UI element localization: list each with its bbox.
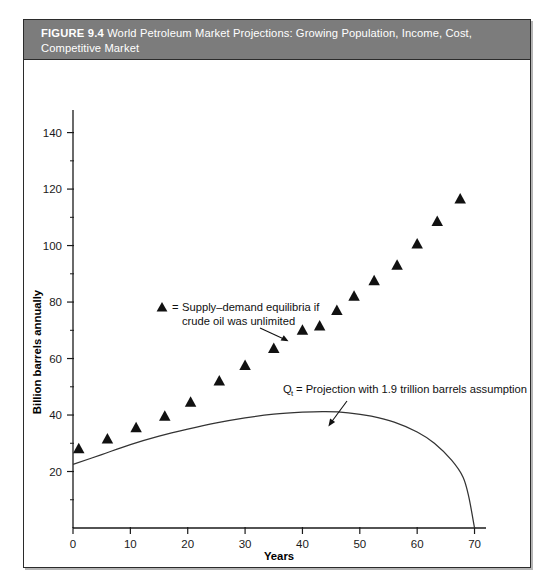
figure-caption-text: World Petroleum Market Projections: Grow… [41, 27, 472, 54]
curve-label-annotation: Q t = Projection with 1.9 trillion barre… [283, 383, 527, 426]
y-tick-label: 20 [49, 466, 62, 478]
legend-triangle-icon [157, 302, 168, 312]
x-tick-label: 10 [124, 538, 137, 550]
chart-plot-area: 20406080100120140 010203040506070 Billio… [24, 60, 530, 567]
data-point-marker [102, 433, 114, 444]
curve-label-text: = Projection with 1.9 trillion barrels a… [296, 383, 527, 395]
x-axis-ticks: 010203040506070 [70, 527, 481, 550]
legend-line-2: crude oil was unlimited [182, 315, 295, 327]
legend-line-1: Supply–demand equilibria if [182, 301, 320, 313]
data-point-marker [185, 396, 197, 407]
y-tick-label: 40 [49, 409, 62, 421]
figure-panel: FIGURE 9.4 World Petroleum Market Projec… [23, 19, 531, 568]
data-point-marker [159, 410, 171, 421]
data-point-marker [368, 275, 380, 286]
data-point-marker [297, 324, 309, 335]
data-point-marker [348, 290, 360, 301]
y-tick-label: 140 [43, 127, 62, 139]
data-point-marker [411, 238, 423, 249]
y-tick-label: 60 [49, 353, 62, 365]
x-tick-label: 20 [181, 538, 194, 550]
data-point-marker [130, 422, 142, 433]
figure-number: FIGURE 9.4 [41, 27, 104, 39]
x-tick-label: 70 [468, 538, 481, 550]
figure-caption: FIGURE 9.4 World Petroleum Market Projec… [41, 26, 516, 55]
x-tick-label: 40 [296, 538, 309, 550]
data-point-marker [431, 215, 443, 226]
x-tick-label: 0 [70, 538, 76, 550]
data-point-marker [331, 304, 343, 315]
legend-equals-sign: = [172, 301, 179, 313]
figure-caption-bar: FIGURE 9.4 World Petroleum Market Projec… [24, 20, 530, 60]
y-axis-title: Billion barrels annually [31, 289, 43, 414]
y-tick-label: 100 [43, 240, 62, 252]
data-point-marker [391, 259, 403, 270]
curve-label-subscript: t [291, 389, 294, 398]
data-point-marker [214, 375, 226, 386]
data-point-marker [268, 343, 280, 354]
x-axis-title: Years [264, 550, 294, 562]
data-point-marker [73, 443, 85, 454]
y-tick-label: 120 [43, 183, 62, 195]
x-tick-label: 60 [411, 538, 424, 550]
y-axis-ticks: 20406080100120140 [43, 127, 74, 478]
data-point-marker [239, 360, 251, 371]
curve-arrow-head [328, 419, 335, 427]
data-point-marker [314, 320, 326, 331]
y-tick-label: 80 [49, 296, 62, 308]
marker-legend-annotation: = Supply–demand equilibria if crude oil … [157, 301, 321, 341]
x-tick-label: 30 [239, 538, 252, 550]
x-tick-label: 50 [353, 538, 366, 550]
data-point-marker [454, 193, 466, 204]
petroleum-projection-chart: 20406080100120140 010203040506070 Billio… [24, 60, 529, 567]
